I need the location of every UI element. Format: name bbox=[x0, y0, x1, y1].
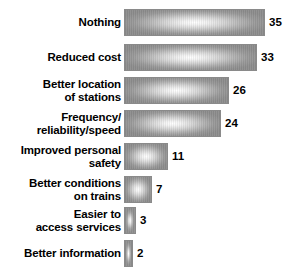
bar bbox=[124, 44, 257, 71]
bar-row: Reduced cost33 bbox=[0, 44, 299, 71]
bar-value-label: 7 bbox=[152, 183, 162, 196]
bar-track: 7 bbox=[124, 176, 299, 203]
bar-track: 35 bbox=[124, 9, 299, 36]
bar-value-label: 33 bbox=[257, 51, 274, 64]
bar-category-label: Better information bbox=[0, 247, 124, 260]
bar-row: Better information2 bbox=[0, 240, 299, 267]
bar bbox=[124, 176, 152, 203]
bar-category-label: Reduced cost bbox=[0, 51, 124, 64]
bar-category-label: Easier to access services bbox=[0, 208, 124, 234]
bar-value-label: 26 bbox=[229, 84, 246, 97]
bar-row: Better conditions on trains7 bbox=[0, 176, 299, 203]
horizontal-bar-chart: Nothing35Reduced cost33Better location o… bbox=[0, 0, 299, 275]
bar-value-label: 11 bbox=[168, 150, 184, 163]
bar bbox=[124, 77, 229, 104]
bar-category-label: Improved personal safety bbox=[0, 144, 124, 170]
bar-value-label: 35 bbox=[265, 16, 282, 29]
bar bbox=[124, 9, 265, 36]
bar-category-label: Better location of stations bbox=[0, 78, 124, 104]
bar-value-label: 3 bbox=[136, 214, 146, 227]
bar-category-label: Frequency/ reliability/speed bbox=[0, 111, 124, 137]
bar-row: Better location of stations26 bbox=[0, 77, 299, 104]
bar-row: Easier to access services3 bbox=[0, 207, 299, 234]
bar bbox=[124, 143, 168, 170]
bar bbox=[124, 240, 133, 267]
bar-track: 33 bbox=[124, 44, 299, 71]
bar-row: Improved personal safety11 bbox=[0, 143, 299, 170]
bar-track: 26 bbox=[124, 77, 299, 104]
bar-row: Frequency/ reliability/speed24 bbox=[0, 110, 299, 137]
bar-value-label: 2 bbox=[133, 247, 143, 260]
bar bbox=[124, 207, 136, 234]
bar-row: Nothing35 bbox=[0, 9, 299, 36]
bar-value-label: 24 bbox=[221, 117, 238, 130]
bar-track: 2 bbox=[124, 240, 299, 267]
bar-category-label: Better conditions on trains bbox=[0, 177, 124, 203]
bar bbox=[124, 110, 221, 137]
bar-track: 11 bbox=[124, 143, 299, 170]
bar-track: 24 bbox=[124, 110, 299, 137]
bar-category-label: Nothing bbox=[0, 16, 124, 29]
bar-track: 3 bbox=[124, 207, 299, 234]
